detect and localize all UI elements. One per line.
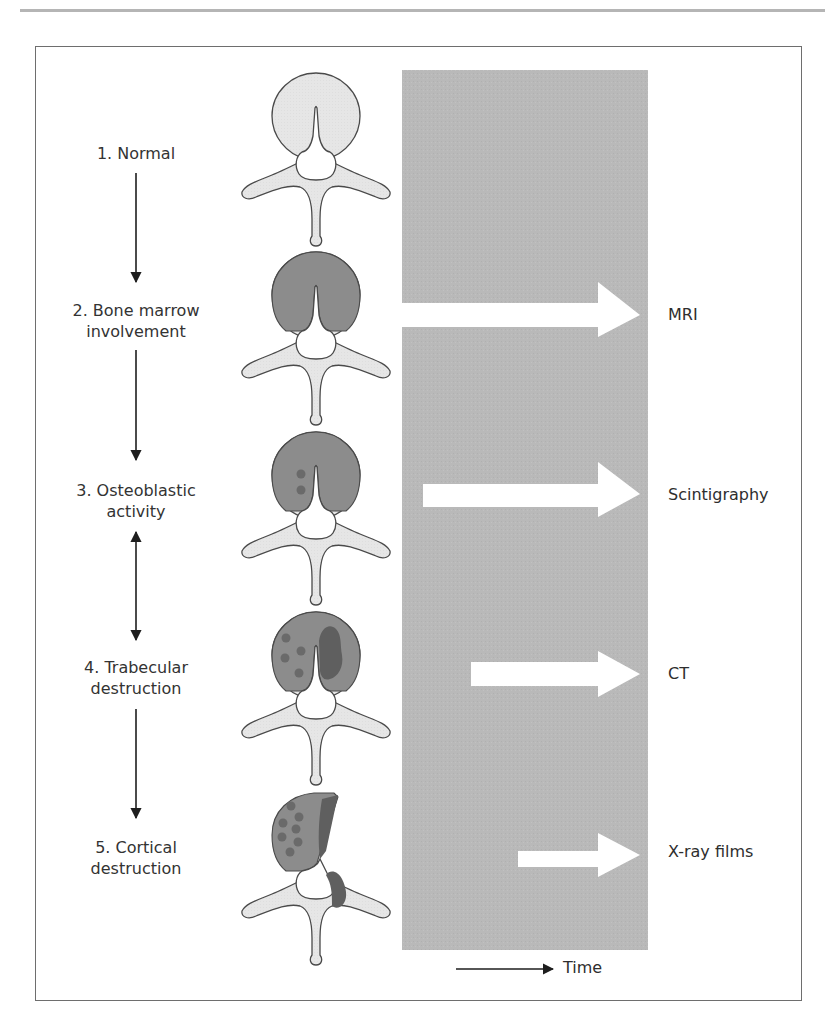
diagram-graphics: [0, 0, 825, 1017]
lesion-dot: [294, 838, 303, 847]
vertebra-trabecular: [242, 612, 390, 785]
lesion-dot: [286, 848, 295, 857]
lesion-dot: [282, 634, 291, 643]
lesion-dot: [297, 486, 306, 495]
lesion-dot: [295, 813, 304, 822]
lesion-dot: [281, 654, 290, 663]
cortical-lesion: [319, 795, 338, 859]
vertebra-osteoblastic: [242, 432, 390, 605]
lesion-dot: [295, 669, 304, 678]
lesion-dot: [287, 802, 296, 811]
panel-texture: [402, 70, 648, 950]
trabecular-lesion: [319, 626, 342, 679]
vertebra-cortical: [242, 793, 390, 965]
lesion-dot: [278, 833, 287, 842]
lesion-dot: [297, 647, 306, 656]
vertebra-normal: [242, 73, 390, 246]
vertebra-bone-marrow: [242, 252, 390, 425]
lesion-dot: [297, 470, 306, 479]
lesion-dot: [292, 825, 301, 834]
lesion-dot: [279, 819, 288, 828]
